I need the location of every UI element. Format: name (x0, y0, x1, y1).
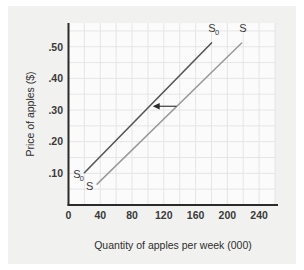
y-tick-label: .10 (48, 167, 63, 179)
x-axis-title: Quantity of apples per week (000) (94, 239, 252, 251)
s0-top-label-subscript: 0 (215, 28, 219, 37)
x-tick-label: 0 (66, 209, 72, 221)
s-bottom-label: S (86, 180, 93, 192)
y-tick-label: .20 (48, 135, 63, 147)
supply-shift-chart: 04080120160200240 .10.20.30.40.50 S0SS0S… (0, 0, 304, 270)
y-axis-title: Price of apples ($) (24, 71, 36, 156)
plot-wrapper: 04080120160200240 .10.20.30.40.50 S0SS0S… (0, 0, 304, 270)
s-top-label-text: S (239, 22, 246, 34)
x-tick-labels: 04080120160200240 (66, 209, 268, 221)
x-tick-label: 120 (155, 209, 173, 221)
x-tick-label: 40 (94, 209, 106, 221)
x-tick-label: 200 (219, 209, 237, 221)
chart-figure: 04080120160200240 .10.20.30.40.50 S0SS0S… (0, 0, 304, 270)
x-tick-label: 160 (187, 209, 205, 221)
x-tick-label: 240 (250, 209, 268, 221)
s-top-label: S (239, 22, 246, 34)
y-tick-label: .30 (48, 104, 63, 116)
s0-bottom-label-subscript: 0 (80, 174, 84, 183)
s-bottom-label-text: S (86, 180, 93, 192)
y-tick-label: .40 (48, 72, 63, 84)
y-tick-label: .50 (48, 41, 63, 53)
plot-background (68, 23, 275, 205)
x-tick-label: 80 (126, 209, 138, 221)
y-tick-labels: .10.20.30.40.50 (48, 41, 63, 180)
